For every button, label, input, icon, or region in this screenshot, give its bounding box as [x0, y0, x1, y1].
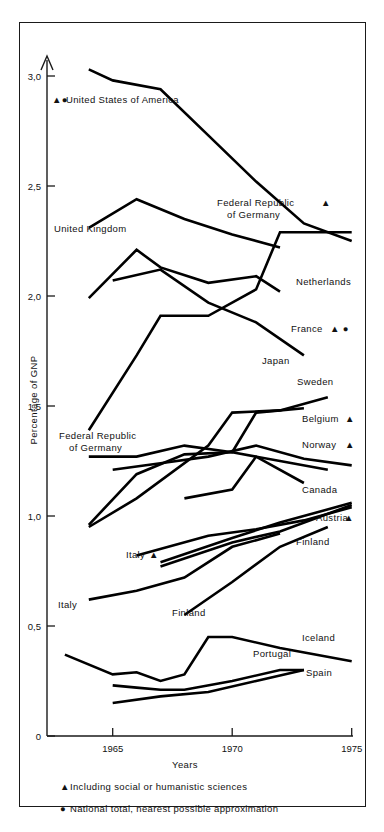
x-axis-title: Years [172, 759, 198, 770]
label-japan: Japan [262, 355, 290, 366]
y-tick-label: 1,0 [28, 511, 41, 522]
label-spain: Spain [306, 667, 332, 678]
label-france: France [291, 323, 323, 334]
triangle-marker: ▲ [60, 781, 70, 792]
label-federal-republic-of-germany-top: Federal Republic [217, 197, 294, 208]
footnote-marker-glyph: ▲ [345, 439, 355, 450]
y-tick-label: 0,5 [28, 621, 41, 632]
footnote-marker-glyph: ▲ ● [330, 323, 349, 334]
label-belgium: Belgium [302, 413, 339, 424]
y-tick-label: 2,0 [28, 291, 41, 302]
x-tick-group: 196519701975 [102, 728, 362, 754]
label-finland-right: Finland [296, 536, 330, 547]
footnotes-group: ▲Including social or humanistic sciences… [60, 781, 278, 814]
label-finland-lower: Finland [172, 607, 206, 618]
chart-canvas: 00,51,01,52,02,53,0 196519701975 Percent… [0, 0, 384, 832]
footnote-marker-glyph: ▲ [344, 512, 354, 523]
x-tick-label: 1965 [102, 743, 123, 754]
x-tick-label: 1970 [222, 743, 243, 754]
footnote-marker-glyph: ▲ [321, 197, 331, 208]
label-united-kingdom: United Kingdom [54, 223, 127, 234]
label-united-states-of-america: United States of America [66, 94, 179, 105]
y-tick-label: 0 [36, 731, 41, 742]
label-netherlands: Netherlands [296, 276, 351, 287]
footnote-text-2: National total, nearest possible approxi… [70, 803, 278, 814]
label-norway: Norway [302, 439, 336, 450]
footnote-marker-glyph: ▲ [149, 549, 159, 560]
circle-marker: ● [60, 803, 66, 814]
y-tick-label: 2,5 [28, 181, 41, 192]
footnote-marker-glyph: ▲ [345, 413, 355, 424]
series-labels-group: ▲●United States of AmericaUnited Kingdom… [52, 94, 355, 678]
label-federal-republic-of-germany-lower: Federal Republic [59, 430, 136, 441]
label-italy-lower: Italy [58, 599, 77, 610]
label-federal-republic-of-germany-top-line2: of Germany [227, 209, 280, 220]
label-iceland: Iceland [302, 632, 335, 643]
label-sweden: Sweden [297, 376, 333, 387]
x-tick-label: 1975 [341, 743, 362, 754]
label-federal-republic-of-germany-lower-line2: of Germany [69, 442, 122, 453]
label-portugal: Portugal [253, 648, 291, 659]
label-italy-upper: Italy [126, 549, 145, 560]
footnote-text-1: Including social or humanistic sciences [70, 781, 247, 792]
label-canada: Canada [302, 484, 338, 495]
y-axis-title: Percentage of GNP [28, 355, 39, 444]
y-tick-label: 3,0 [28, 71, 41, 82]
